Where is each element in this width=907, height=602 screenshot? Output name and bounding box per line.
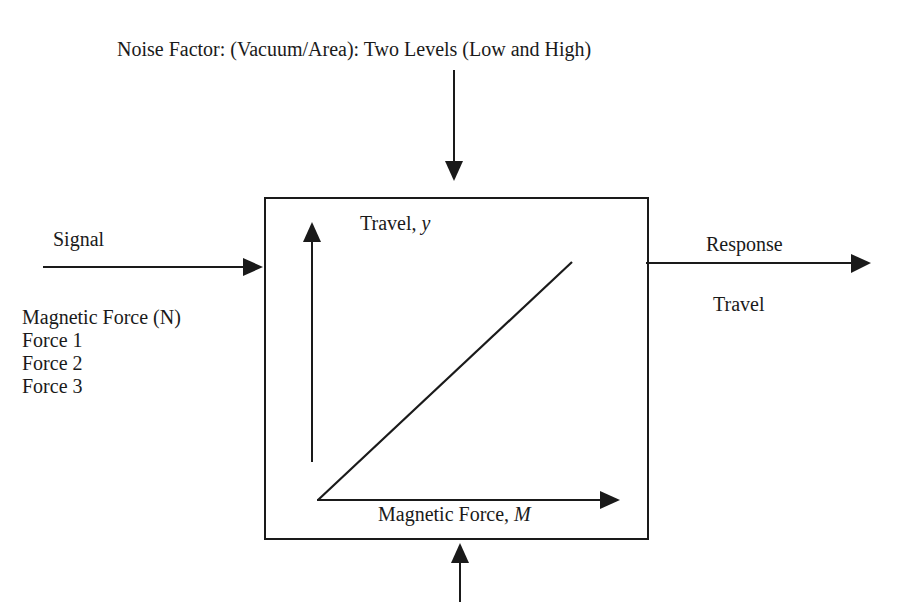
noise-factor-label: Noise Factor: (Vacuum/Area): Two Levels …	[117, 38, 591, 60]
ideal-function-line	[318, 262, 572, 500]
signal-arrow	[43, 258, 263, 276]
x-axis-label-text: Magnetic Force,	[378, 503, 514, 525]
control-arrow	[451, 543, 469, 602]
y-axis-variable: y	[421, 212, 430, 234]
response-label: Response	[706, 233, 783, 255]
y-axis-label-text: Travel,	[360, 212, 421, 234]
y-axis	[303, 222, 321, 462]
response-value: Travel	[713, 293, 764, 315]
signal-level-1: Force 1	[22, 329, 181, 352]
system-box	[265, 198, 648, 539]
signal-level-3: Force 3	[22, 375, 181, 398]
x-axis-variable: M	[514, 503, 531, 525]
response-arrow	[646, 254, 871, 273]
x-axis-label: Magnetic Force, M	[378, 503, 531, 525]
signal-factor-title: Magnetic Force (N)	[22, 306, 181, 329]
signal-label: Signal	[53, 228, 104, 250]
noise-arrow	[445, 70, 463, 181]
signal-factor-list: Magnetic Force (N) Force 1 Force 2 Force…	[22, 306, 181, 398]
signal-level-2: Force 2	[22, 352, 181, 375]
y-axis-label: Travel, y	[360, 212, 430, 234]
